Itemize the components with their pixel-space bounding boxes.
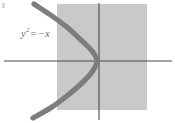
figure-canvas [0,0,175,123]
equation-right-side: −x [38,28,50,39]
curve-equation-label: y2=−x [21,27,50,39]
math-figure: y2=−x [0,0,175,123]
equation-operator: = [30,28,38,39]
